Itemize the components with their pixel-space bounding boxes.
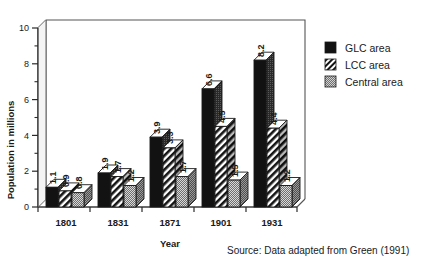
legend: GLC area LCC area Central area bbox=[325, 42, 403, 88]
x-tick-label-1931: 1931 bbox=[261, 217, 283, 228]
bar-1871-central[interactable] bbox=[176, 169, 196, 207]
value-label-1931-lcc: 4.4 bbox=[269, 112, 279, 125]
value-label-1871-glc: 3.9 bbox=[152, 121, 162, 134]
source-note: Source: Data adapted from Green (1991) bbox=[227, 245, 409, 256]
x-tick-label-1801: 1801 bbox=[55, 217, 77, 228]
x-axis bbox=[38, 207, 297, 212]
x-tick-label-1831: 1831 bbox=[107, 217, 129, 228]
legend-swatch-glc-area bbox=[325, 42, 336, 53]
value-label-1831-lcc: 1.7 bbox=[113, 160, 123, 173]
value-label-1901-central: 1.5 bbox=[230, 164, 240, 177]
value-label-1831-glc: 1.9 bbox=[100, 157, 110, 170]
value-label-1801-glc: 1.1 bbox=[48, 171, 58, 184]
value-label-1931-central: 1.2 bbox=[282, 169, 292, 182]
legend-label-central-area: Central area bbox=[345, 76, 403, 88]
legend-item-central-area[interactable]: Central area bbox=[325, 76, 403, 88]
y-axis: 0 2 4 6 8 10 bbox=[19, 23, 38, 212]
value-label-1801-lcc: 0.9 bbox=[61, 174, 71, 187]
y-tick-label-8: 8 bbox=[24, 59, 29, 69]
value-label-1931-glc: 8.2 bbox=[256, 44, 266, 57]
value-label-1901-glc: 6.6 bbox=[204, 73, 214, 86]
legend-label-lcc-area: LCC area bbox=[345, 59, 390, 71]
x-axis-title: Year bbox=[160, 238, 180, 249]
y-axis-title: Population in millions bbox=[5, 101, 16, 200]
bar-chart-canvas: 0 2 4 6 8 10 Population in millions bbox=[0, 0, 426, 271]
y-tick-label-10: 10 bbox=[19, 23, 29, 33]
y-tick-label-6: 6 bbox=[24, 95, 29, 105]
value-label-1831-central: 1.2 bbox=[126, 169, 136, 182]
x-tick-label-1901: 1901 bbox=[210, 217, 232, 228]
legend-swatch-central-area bbox=[325, 76, 336, 87]
y-tick-label-2: 2 bbox=[24, 166, 29, 176]
y-tick-label-4: 4 bbox=[24, 131, 29, 141]
chart-figure: 0 2 4 6 8 10 Population in millions bbox=[0, 0, 426, 271]
legend-item-glc-area[interactable]: GLC area bbox=[325, 42, 391, 54]
legend-item-lcc-area[interactable]: LCC area bbox=[325, 59, 390, 71]
y-tick-label-0: 0 bbox=[24, 202, 29, 212]
value-label-1901-lcc: 4.5 bbox=[217, 110, 227, 123]
x-tick-label-1871: 1871 bbox=[159, 217, 181, 228]
legend-label-glc-area: GLC area bbox=[345, 42, 391, 54]
legend-swatch-lcc-area bbox=[325, 59, 336, 70]
value-label-1871-central: 1.7 bbox=[178, 160, 188, 173]
value-label-1801-central: 0.8 bbox=[74, 176, 84, 189]
value-label-1871-lcc: 3.3 bbox=[165, 131, 175, 144]
